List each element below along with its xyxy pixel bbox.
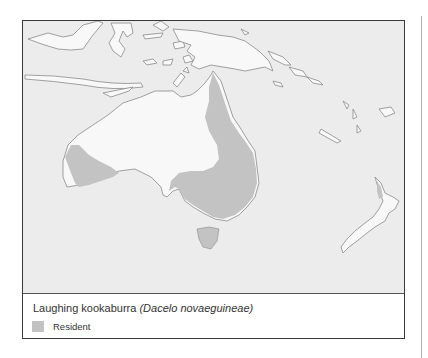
map-legend: Resident [32, 321, 91, 332]
indonesia-islands [25, 21, 189, 97]
range-map [23, 21, 404, 294]
map-graphic [23, 21, 404, 293]
pacific-islands [241, 29, 395, 143]
legend-label-resident: Resident [53, 321, 91, 332]
tasmania [197, 227, 219, 249]
map-figure: Laughing kookaburra (Dacelo novaeguineae… [22, 20, 405, 339]
new-zealand [341, 177, 399, 253]
page-divider [421, 16, 422, 358]
new-guinea [173, 29, 273, 71]
resident-swatch [32, 321, 44, 332]
species-scientific-name: (Dacelo novaeguineae) [139, 302, 253, 314]
map-caption: Laughing kookaburra (Dacelo novaeguineae… [33, 302, 253, 314]
species-common-name: Laughing kookaburra [33, 302, 136, 314]
